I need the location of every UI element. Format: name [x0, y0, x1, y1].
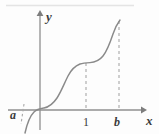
- x-axis-label: x: [145, 113, 153, 128]
- graph-canvas: y x a 1 b: [0, 0, 159, 134]
- y-axis-label: y: [44, 9, 52, 24]
- x-tick-label-a: a: [10, 108, 16, 122]
- tick-dash-a: [21, 104, 24, 124]
- x-tick-label-b: b: [114, 115, 120, 129]
- function-graph-figure: y x a 1 b: [0, 0, 159, 134]
- y-axis-arrow-icon: [37, 10, 44, 16]
- x-axis: [8, 107, 147, 114]
- y-axis: [37, 10, 44, 130]
- x-tick-label-one: 1: [83, 115, 89, 129]
- function-curve: [25, 20, 120, 133]
